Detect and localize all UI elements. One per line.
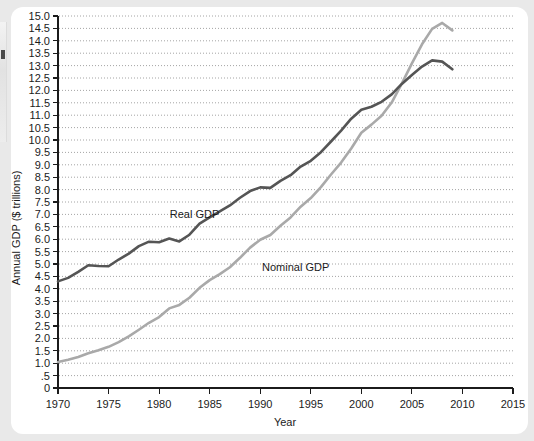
y-tick-label: 4.0	[35, 283, 50, 295]
y-tick-label: 1.0	[35, 357, 50, 369]
x-tick-label: 1990	[248, 398, 272, 410]
y-tick-label: 8.5	[35, 171, 50, 183]
y-axis-tick-labels: 0.51.01.52.02.53.03.54.04.55.05.56.06.57…	[29, 10, 50, 394]
x-axis-ticks	[58, 388, 513, 394]
y-tick-label: 14.5	[29, 22, 50, 34]
y-tick-label: 13.0	[29, 60, 50, 72]
y-tick-label: 8.0	[35, 184, 50, 196]
x-tick-label: 2015	[501, 398, 525, 410]
gridlines	[59, 16, 513, 376]
y-tick-label: 7.0	[35, 208, 50, 220]
x-tick-label: 2000	[349, 398, 373, 410]
series-line-nominal-gdp	[58, 23, 452, 362]
y-tick-label: 13.5	[29, 47, 50, 59]
y-tick-label: 3.0	[35, 308, 50, 320]
y-tick-label: 12.5	[29, 72, 50, 84]
y-axis-ticks	[53, 16, 58, 388]
x-tick-label: 1985	[197, 398, 221, 410]
series-line-real-gdp	[58, 60, 452, 281]
y-tick-label: 9.0	[35, 159, 50, 171]
y-tick-label: 2.0	[35, 332, 50, 344]
y-tick-label: 3.5	[35, 295, 50, 307]
x-tick-label: 1980	[147, 398, 171, 410]
y-tick-label: 9.5	[35, 146, 50, 158]
y-tick-label: 4.5	[35, 270, 50, 282]
x-tick-label: 2010	[450, 398, 474, 410]
y-tick-label: .5	[41, 370, 50, 382]
series-label-real-gdp: Real GDP	[170, 208, 220, 220]
y-tick-label: 11.5	[29, 97, 50, 109]
x-tick-label: 2005	[400, 398, 424, 410]
x-axis-tick-labels: 1970197519801985199019952000200520102015	[46, 398, 525, 410]
y-tick-label: 5.5	[35, 246, 50, 258]
y-tick-label: 7.5	[35, 196, 50, 208]
x-axis-title: Year	[274, 416, 297, 428]
y-tick-label: 6.0	[35, 233, 50, 245]
gdp-line-chart: 0.51.01.52.02.53.03.54.04.55.05.56.06.57…	[0, 0, 534, 441]
y-tick-label: 0	[44, 382, 50, 394]
y-axis-title: Annual GDP ($ trillions)	[10, 171, 22, 286]
y-tick-label: 12.0	[29, 84, 50, 96]
screenshot-root: 0.51.01.52.02.53.03.54.04.55.05.56.06.57…	[0, 0, 534, 441]
x-tick-label: 1995	[299, 398, 323, 410]
y-tick-label: 1.5	[35, 345, 50, 357]
x-tick-label: 1975	[96, 398, 120, 410]
y-tick-label: 6.5	[35, 221, 50, 233]
y-tick-label: 2.5	[35, 320, 50, 332]
x-tick-label: 1970	[46, 398, 70, 410]
y-tick-label: 14.0	[29, 35, 50, 47]
y-tick-label: 10.5	[29, 122, 50, 134]
y-tick-label: 5.0	[35, 258, 50, 270]
y-tick-label: 15.0	[29, 10, 50, 22]
y-tick-label: 10.0	[29, 134, 50, 146]
chart-svg: 0.51.01.52.02.53.03.54.04.55.05.56.06.57…	[0, 0, 534, 441]
y-tick-label: 11.0	[29, 109, 50, 121]
series-label-nominal-gdp: Nominal GDP	[262, 261, 329, 273]
